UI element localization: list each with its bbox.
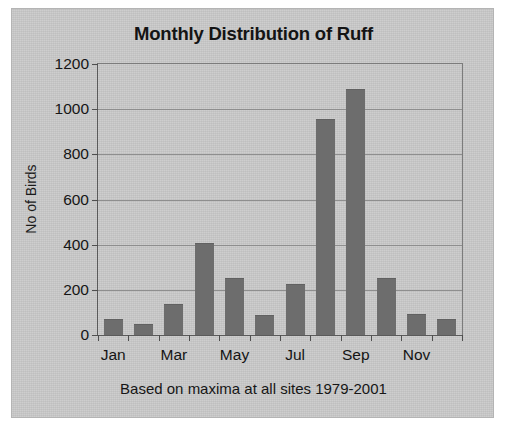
y-axis-title: No of Birds <box>23 139 39 259</box>
bar[interactable] <box>104 319 123 335</box>
x-axis-tick <box>219 335 220 341</box>
x-axis-tick <box>371 335 372 341</box>
y-axis-tick-label: 800 <box>63 145 89 163</box>
x-axis-tick <box>159 335 160 341</box>
bar[interactable] <box>134 324 153 335</box>
x-axis-tick <box>189 335 190 341</box>
x-axis-tick-label: Sep <box>342 346 370 364</box>
x-axis-tick <box>462 335 463 341</box>
x-axis-tick <box>280 335 281 341</box>
bar[interactable] <box>437 319 456 335</box>
x-axis-tick <box>341 335 342 341</box>
x-axis-tick-label: May <box>220 346 249 364</box>
y-axis-tick-label: 1000 <box>55 100 89 118</box>
y-axis-tick-label: 600 <box>63 191 89 209</box>
x-axis-tick <box>432 335 433 341</box>
bar[interactable] <box>195 243 214 335</box>
bar[interactable] <box>377 278 396 335</box>
chart-title: Monthly Distribution of Ruff <box>12 23 495 45</box>
x-axis-tick-label: Jul <box>285 346 305 364</box>
x-axis-tick-label: Jan <box>101 346 126 364</box>
x-axis-tick-label: Nov <box>403 346 431 364</box>
x-axis-caption: Based on maxima at all sites 1979-2001 <box>12 380 495 397</box>
plot-area: 020040060080010001200 JanMarMayJulSepNov <box>97 63 463 336</box>
y-axis-tick-label: 200 <box>63 281 89 299</box>
x-axis-tick-label: Mar <box>160 346 187 364</box>
y-axis-tick-label: 0 <box>80 326 89 344</box>
x-axis-tick <box>401 335 402 341</box>
bar[interactable] <box>316 119 335 335</box>
chart-frame: Monthly Distribution of Ruff No of Birds… <box>11 8 494 418</box>
bar[interactable] <box>164 304 183 335</box>
x-axis-tick <box>98 335 99 341</box>
bar[interactable] <box>407 314 426 335</box>
y-axis-tick-label: 1200 <box>55 55 89 73</box>
x-axis-tick <box>128 335 129 341</box>
y-axis-tick-label: 400 <box>63 236 89 254</box>
bar[interactable] <box>225 278 244 335</box>
bar-series <box>98 64 462 335</box>
chart-page: Monthly Distribution of Ruff No of Birds… <box>0 0 505 430</box>
bar[interactable] <box>255 315 274 335</box>
bar[interactable] <box>346 89 365 335</box>
bar[interactable] <box>286 284 305 335</box>
x-axis-tick <box>310 335 311 341</box>
x-axis-tick <box>250 335 251 341</box>
